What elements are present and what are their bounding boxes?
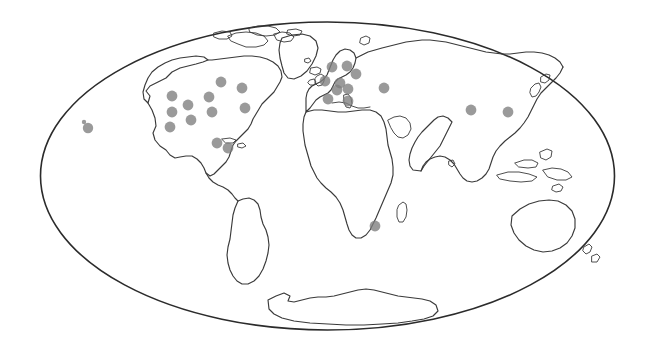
world-map-canvas <box>0 0 656 350</box>
map-marker-great-lakes <box>207 107 218 118</box>
map-marker-caribbean <box>223 143 234 154</box>
map-marker-hawaii-small <box>82 120 86 124</box>
map-marker-japan-korea <box>503 107 514 118</box>
map-marker-turkey-caucasus <box>379 83 390 94</box>
map-marker-mountain-west <box>183 100 194 111</box>
map-marker-italy <box>343 96 354 107</box>
map-marker-netherlands <box>332 85 343 96</box>
map-marker-western-us <box>167 107 178 118</box>
map-marker-south-africa <box>370 221 381 232</box>
map-marker-uk <box>320 76 331 87</box>
map-marker-pacific-nw <box>167 91 178 102</box>
map-marker-hawaii <box>83 123 93 133</box>
map-marker-france <box>323 94 334 105</box>
map-marker-finland <box>351 69 362 80</box>
map-marker-central-us <box>186 115 197 126</box>
map-marker-canada-prairie <box>216 77 227 88</box>
world-map-figure <box>0 0 656 350</box>
coastline-new-zealand-south <box>592 254 600 262</box>
map-marker-maritimes <box>240 103 251 114</box>
map-marker-norway <box>327 62 338 73</box>
map-marker-scandinavia-n <box>342 61 353 72</box>
map-marker-northeast-us <box>237 83 248 94</box>
map-marker-germany <box>343 84 354 95</box>
map-marker-midwest-us <box>204 92 215 103</box>
map-marker-china <box>466 105 477 116</box>
map-marker-florida <box>212 138 223 149</box>
map-marker-southwest-us <box>165 122 176 133</box>
